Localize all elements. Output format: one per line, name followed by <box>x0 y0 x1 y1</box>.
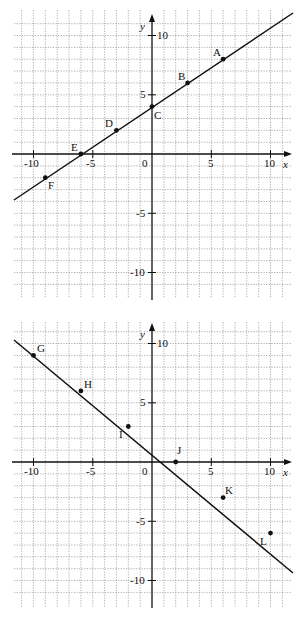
x-tick-label: 5 <box>208 157 214 169</box>
point-label-e: E <box>71 141 78 153</box>
y-tick-label: -10 <box>130 574 145 586</box>
point-label-i: I <box>119 428 123 440</box>
point-label-b: B <box>178 70 185 82</box>
point-label-k: K <box>225 484 233 496</box>
point-label-a: A <box>213 46 221 58</box>
x-tick-label: 10 <box>264 465 276 477</box>
point-label-j: J <box>177 444 182 456</box>
x-tick-label: 5 <box>208 465 214 477</box>
y-tick-label: 5 <box>140 396 146 408</box>
x-axis-label: x <box>282 158 288 170</box>
point-d <box>114 128 119 133</box>
y-axis-arrow-icon <box>149 14 155 22</box>
graph-bottom: -10 -5 0 5 10 x 10 5 -5 -10 y G H I J K … <box>0 308 305 622</box>
x-tick-label: 10 <box>264 157 276 169</box>
y-tick-label: 5 <box>140 88 146 100</box>
point-label-l: L <box>260 535 267 547</box>
point-h <box>79 389 84 394</box>
point-f <box>43 175 48 180</box>
origin-label: 0 <box>142 465 148 477</box>
point-label-f: F <box>48 179 54 191</box>
y-tick-label: -10 <box>130 266 145 278</box>
point-label-c: C <box>154 109 161 121</box>
y-axis-label: y <box>139 328 145 340</box>
point-label-h: H <box>84 378 92 390</box>
graph-top: -10 -5 0 5 10 x 10 5 -5 -10 y A B C D E … <box>0 0 305 305</box>
point-i <box>126 424 131 429</box>
x-axis-label: x <box>282 466 288 478</box>
grid-bottom <box>14 322 292 608</box>
x-tick-label: -5 <box>86 157 96 169</box>
point-b <box>185 81 190 86</box>
x-axis-arrow-icon <box>284 459 292 465</box>
y-tick-label: 10 <box>157 337 169 349</box>
y-tick-label: -5 <box>136 207 146 219</box>
x-tick-label: -5 <box>86 465 96 477</box>
y-axis-label: y <box>139 20 145 32</box>
y-tick-label: -5 <box>136 515 146 527</box>
point-j <box>173 460 178 465</box>
point-a <box>221 57 226 62</box>
point-g <box>31 353 36 358</box>
point-label-g: G <box>37 342 45 354</box>
x-axis-arrow-icon <box>284 151 292 157</box>
y-axis-arrow-icon <box>149 323 155 331</box>
x-tick-label: -10 <box>24 465 39 477</box>
origin-label: 0 <box>142 157 148 169</box>
point-l <box>268 531 273 536</box>
x-tick-label: -10 <box>24 157 39 169</box>
point-e <box>79 152 84 157</box>
point-label-d: D <box>105 117 113 129</box>
y-tick-label: 10 <box>157 29 169 41</box>
line-bottom <box>14 340 293 573</box>
